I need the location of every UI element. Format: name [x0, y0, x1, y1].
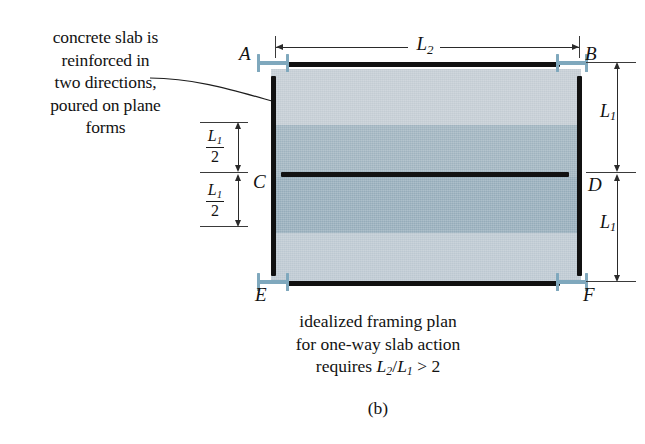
joint-label-c: C [253, 172, 266, 191]
beam-ab-top [288, 62, 560, 67]
dim-left-lower-denominator: 2 [206, 202, 224, 220]
joint-label-d: D [588, 175, 602, 194]
dim-left-extension-bottom [200, 226, 248, 227]
slab-band-upper-mid [271, 125, 581, 177]
dim-left-line-upper [238, 124, 239, 170]
dim-left-upper-num-subscript: 1 [217, 134, 222, 146]
caption-ratio-denominator-symbol: L [397, 356, 407, 376]
caption-ratio-condition: > 2 [413, 356, 440, 376]
dim-right-arrowhead-bottom [614, 275, 620, 282]
dim-right-line-lower [617, 178, 618, 279]
dim-right-extension-mid [586, 172, 636, 173]
dim-label-left-lower: L1 2 [196, 182, 234, 220]
figure-caption: idealized framing plan for one-way slab … [228, 310, 528, 383]
caption-line-3: requires L2/L1 > 2 [228, 355, 528, 383]
dim-right-lower-symbol: L [600, 212, 610, 232]
beam-cd-middle [281, 172, 569, 177]
dim-label-right-upper: L1 [600, 101, 616, 124]
dim-left-extension-mid [200, 172, 248, 173]
dim-right-arrowhead-mid-upper [614, 165, 620, 172]
dim-l2-extension-right [579, 36, 580, 58]
dim-left-arrowhead-mid-upper [235, 165, 241, 172]
figure-part-label: (b) [228, 398, 528, 419]
dim-left-upper-denominator: 2 [206, 148, 224, 166]
annotation-line-1: concrete slab is [8, 26, 203, 49]
beam-ae-left [271, 76, 276, 276]
dim-right-line-upper [617, 64, 618, 166]
joint-label-a: A [239, 44, 251, 63]
slab-band-top [271, 69, 581, 125]
dim-right-arrowhead-top [614, 62, 620, 69]
beam-bf-right [577, 76, 582, 276]
dim-left-extension-top [200, 122, 248, 123]
joint-label-f: F [583, 285, 595, 304]
dim-left-arrowhead-mid-lower [235, 174, 241, 181]
dim-right-upper-symbol: L [600, 101, 610, 121]
dim-left-arrowhead-top [235, 122, 241, 129]
dim-label-left-upper: L1 2 [196, 128, 234, 166]
dim-l2-line-right-segment [440, 47, 579, 48]
dim-left-upper-num-symbol: L [208, 127, 217, 144]
dim-l2-arrowhead-right [572, 44, 579, 50]
dim-left-lower-num-symbol: L [208, 181, 217, 198]
dim-l2-symbol: L [416, 33, 427, 54]
framing-plan-figure: concrete slab is reinforced in two direc… [0, 0, 645, 444]
caption-requires-text: requires [316, 356, 377, 376]
dim-left-lower-num-subscript: 1 [217, 188, 222, 200]
dim-left-arrowhead-bottom [235, 220, 241, 227]
slab-band-bottom [271, 233, 581, 281]
dim-l2-arrowhead-left [276, 44, 283, 50]
column-support-b-icon [556, 54, 588, 72]
dim-l2-line-left-segment [276, 47, 408, 48]
dim-label-l2: L2 [408, 33, 442, 58]
caption-line-1: idealized framing plan [228, 310, 528, 333]
dim-label-right-lower: L1 [600, 212, 616, 235]
caption-line-2: for one-way slab action [228, 333, 528, 356]
dim-l2-subscript: 2 [427, 42, 433, 57]
dim-right-lower-subscript: 1 [610, 220, 616, 234]
column-support-a-icon [257, 54, 289, 72]
dim-right-upper-subscript: 1 [610, 109, 616, 123]
dim-right-extension-top [586, 62, 636, 63]
slab-band-lower-mid [271, 177, 581, 233]
dim-right-extension-bottom [586, 281, 636, 282]
dim-left-line-lower [238, 176, 239, 224]
joint-label-e: E [255, 285, 267, 304]
beam-ef-bottom [288, 281, 560, 286]
joint-label-b: B [585, 44, 597, 63]
dim-right-arrowhead-mid-lower [614, 174, 620, 181]
caption-ratio-numerator-symbol: L [377, 356, 387, 376]
